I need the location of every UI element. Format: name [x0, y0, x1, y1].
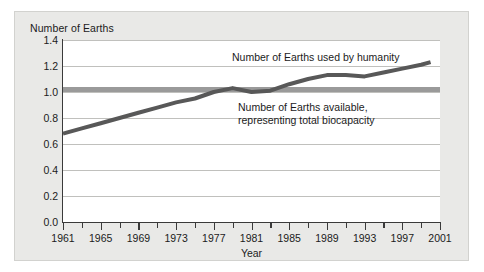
y-axis-tick-label: 0.0	[4, 216, 58, 228]
x-axis-tick-minor	[346, 223, 347, 228]
x-axis-tick-major	[176, 223, 177, 230]
x-axis-tick-label: 1985	[278, 232, 301, 244]
y-axis-tick-label: 1.4	[4, 34, 58, 46]
x-axis-tick-minor	[157, 223, 158, 228]
x-axis-tick-minor	[308, 223, 309, 228]
x-axis-tick-label: 1973	[164, 232, 187, 244]
annotation-biocapacity: Number of Earths available, representing…	[238, 101, 375, 126]
x-axis-tick-major	[63, 223, 64, 230]
x-axis-title: Year	[63, 247, 440, 259]
x-axis-tick-minor	[233, 223, 234, 228]
x-axis-tick-major	[101, 223, 102, 230]
x-axis-tick-label: 1977	[202, 232, 225, 244]
y-axis-tick-label: 0.2	[4, 190, 58, 202]
chart-figure: Number of Earths 0.00.20.40.60.81.01.21.…	[0, 0, 484, 272]
x-axis-tick-label: 1997	[391, 232, 414, 244]
x-axis-tick-label: 2001	[428, 232, 451, 244]
x-axis-tick-label: 1981	[240, 232, 263, 244]
data-series-layer	[63, 40, 440, 222]
x-axis-tick-major	[440, 223, 441, 230]
annotation-humanity: Number of Earths used by humanity	[232, 51, 400, 64]
x-axis-tick-label: 1989	[315, 232, 338, 244]
annotation-biocapacity-line2: representing total biocapacity	[238, 114, 375, 127]
x-axis-tick-minor	[82, 223, 83, 228]
x-axis-tick-major	[289, 223, 290, 230]
x-axis-tick-label: 1965	[89, 232, 112, 244]
y-axis-tick-label: 0.8	[4, 112, 58, 124]
x-axis-tick-major	[365, 223, 366, 230]
x-axis-tick-major	[138, 223, 139, 230]
x-axis-tick-label: 1993	[353, 232, 376, 244]
y-axis-tick-label: 1.2	[4, 60, 58, 72]
x-axis-tick-label: 1961	[51, 232, 74, 244]
y-axis-tick-label: 1.0	[4, 86, 58, 98]
x-axis-tick-minor	[270, 223, 271, 228]
x-axis-tick-major	[214, 223, 215, 230]
x-axis-tick-minor	[195, 223, 196, 228]
y-axis-tick-label: 0.6	[4, 138, 58, 150]
x-axis-tick-minor	[421, 223, 422, 228]
x-axis-tick-minor	[120, 223, 121, 228]
annotation-biocapacity-line1: Number of Earths available,	[238, 101, 375, 114]
x-axis-tick-major	[402, 223, 403, 230]
x-axis-tick-label: 1969	[127, 232, 150, 244]
x-axis-tick-minor	[383, 223, 384, 228]
y-axis-tick-labels: 0.00.20.40.60.81.01.21.4	[0, 0, 58, 272]
x-axis-tick-major	[252, 223, 253, 230]
y-axis-tick-label: 0.4	[4, 164, 58, 176]
x-axis-tick-major	[327, 223, 328, 230]
